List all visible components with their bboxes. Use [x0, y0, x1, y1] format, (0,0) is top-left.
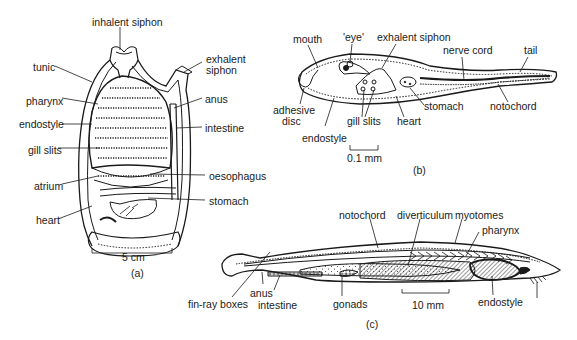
label-mouth: mouth	[293, 33, 322, 45]
panel-a-drawing	[79, 47, 192, 256]
caption-a: (a)	[131, 267, 144, 279]
figure: inhalent siphon exhalent siphon tunic ph…	[0, 0, 577, 340]
label-eye: 'eye'	[343, 31, 364, 43]
label-endostyle: endostyle	[19, 118, 64, 130]
panel-c-drawing	[222, 242, 560, 284]
label-intestine-c: intestine	[258, 299, 297, 311]
label-myotomes: myotomes	[455, 209, 503, 221]
scale-bar-b-label: 0.1 mm	[347, 152, 382, 164]
caption-c: (c)	[366, 318, 378, 330]
label-oesophagus: oesophagus	[209, 170, 266, 182]
label-fin-ray-boxes: fin-ray boxes	[188, 298, 248, 310]
label-anus: anus	[205, 93, 228, 105]
label-tail: tail	[524, 44, 537, 56]
label-exhalent-siphon-b: exhalent siphon	[377, 31, 451, 43]
label-endostyle-c: endostyle	[478, 296, 523, 308]
label-pharynx-c: pharynx	[482, 224, 519, 236]
label-gonads: gonads	[333, 298, 367, 310]
label-adhesive-disc-line2: disc	[282, 115, 301, 127]
label-endostyle-b: endostyle	[302, 132, 347, 144]
label-notochord-b: notochord	[490, 100, 537, 112]
label-inhalent-siphon: inhalent siphon	[92, 16, 163, 28]
label-stomach: stomach	[209, 195, 249, 207]
panel-b-drawing	[298, 54, 556, 104]
scale-bar-a-label: 5 cm	[122, 251, 145, 263]
label-heart-b: heart	[397, 115, 421, 127]
label-heart: heart	[36, 214, 60, 226]
label-gill-slits-b: gill slits	[347, 115, 381, 127]
label-pharynx: pharynx	[26, 95, 63, 107]
scale-bar-c-label: 10 mm	[412, 299, 444, 311]
label-notochord-c: notochord	[339, 209, 386, 221]
label-exhalent-siphon-line2: siphon	[206, 64, 237, 76]
label-atrium: atrium	[34, 180, 63, 192]
label-nerve-cord: nerve cord	[443, 44, 493, 56]
label-intestine: intestine	[205, 122, 244, 134]
label-stomach-b: stomach	[424, 100, 464, 112]
label-tunic: tunic	[33, 61, 55, 73]
caption-b: (b)	[413, 164, 426, 176]
label-gill-slits: gill slits	[28, 144, 62, 156]
label-diverticulum: diverticulum	[397, 209, 453, 221]
label-anus-c: anus	[250, 287, 273, 299]
